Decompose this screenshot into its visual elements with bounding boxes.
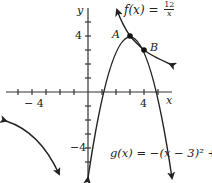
point-a-label: A bbox=[112, 28, 120, 41]
point-a-marker bbox=[127, 33, 133, 39]
f-function-label: f(x) = 12 x bbox=[124, 1, 174, 18]
x-axis bbox=[6, 89, 172, 95]
x-tick-label-4: 4 bbox=[140, 97, 147, 110]
f-label-prefix: f(x) = bbox=[124, 3, 162, 17]
point-b-label: B bbox=[150, 41, 158, 54]
x-tick-label-neg4: − 4 bbox=[24, 97, 44, 110]
f-curve-negative-branch bbox=[6, 121, 59, 174]
x-axis-label: x bbox=[166, 94, 172, 107]
f-curve-positive-branch bbox=[117, 10, 170, 64]
point-b-marker bbox=[141, 47, 147, 53]
g-function-label: g(x) = −(x − 3)² + 4 bbox=[110, 146, 212, 160]
f-denominator: x bbox=[167, 10, 172, 18]
y-tick-label-neg4: −4 bbox=[70, 141, 86, 154]
y-axis bbox=[85, 8, 91, 180]
y-axis-label: y bbox=[77, 4, 83, 17]
y-tick-label-4: 4 bbox=[75, 29, 82, 42]
f-fraction: 12 x bbox=[164, 1, 174, 18]
